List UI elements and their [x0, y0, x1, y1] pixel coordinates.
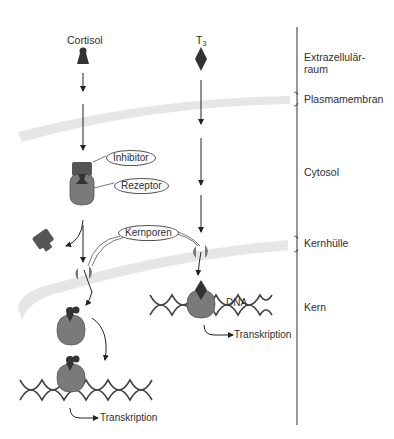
dna-label: DNA [226, 297, 247, 309]
compartment-kernhuelle: Kernhülle [304, 237, 348, 249]
compartment-plasmamembran: Plasmamembran [304, 93, 383, 105]
released-inhibitor [32, 228, 58, 254]
activated-receptor-nucleus [57, 307, 85, 346]
compartment-kern: Kern [304, 301, 326, 313]
compartment-extrazellulaer: Extrazellulär-raum [304, 51, 365, 75]
compartment-extrazellulaer-line2: raum [304, 63, 328, 75]
transcription-label-left: Transkription [100, 412, 157, 424]
cortisol-molecule-icon [77, 48, 89, 65]
t3-label: T3 [196, 34, 206, 50]
hormone-receptor-diagram: Cortisol T3 Inhibitor Rezeptor Kernporen… [0, 0, 394, 439]
t3-label-subscript: 3 [202, 40, 206, 47]
rezeptor-callout: Rezeptor [114, 178, 169, 194]
compartment-extrazellulaer-line1: Extrazellulär- [304, 51, 365, 63]
inhibitor-receptor-complex [70, 162, 94, 205]
transcription-label-right: Transkription [234, 329, 291, 341]
t3-molecule-icon [195, 47, 207, 71]
receptor-bound-to-dna-left [57, 356, 85, 393]
t3-receptor-on-dna [187, 280, 215, 318]
compartment-cytosol: Cytosol [304, 166, 339, 178]
kernporen-callout: Kernporen [118, 225, 179, 241]
inhibitor-callout: Inhibitor [106, 150, 156, 166]
nuclear-envelope [18, 240, 288, 320]
plasma-membrane [18, 96, 290, 142]
cortisol-label: Cortisol [67, 34, 103, 46]
dna-helix-left [20, 380, 152, 400]
